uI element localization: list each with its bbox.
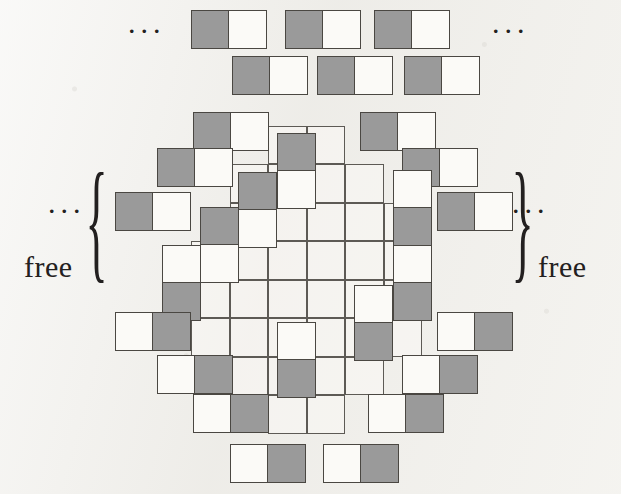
grid-cell: [345, 241, 384, 280]
grid-cell: [307, 280, 346, 319]
domino-half: [157, 355, 196, 394]
domino-half: [232, 56, 271, 95]
domino-half: [360, 112, 399, 151]
domino-half: [437, 312, 476, 351]
domino-tile: [368, 394, 445, 433]
domino-tile: [437, 192, 514, 231]
domino-half: [193, 394, 232, 433]
domino-half: [393, 245, 432, 284]
domino-half: [439, 355, 478, 394]
domino-half: [354, 285, 393, 324]
grid-cell: [268, 280, 307, 319]
domino-half: [368, 394, 407, 433]
domino-half: [157, 148, 196, 187]
domino-half: [374, 10, 413, 49]
domino-half: [393, 170, 432, 209]
domino-tile: [115, 312, 192, 351]
domino-tile: [393, 245, 432, 322]
domino-half: [317, 56, 356, 95]
domino-tile: [200, 207, 239, 284]
grid-cell: [230, 357, 269, 396]
domino-tile: [157, 148, 234, 187]
domino-tile: [360, 112, 437, 151]
domino-tile: [230, 444, 307, 483]
domino-half: [269, 56, 308, 95]
domino-half: [228, 10, 267, 49]
domino-tile: [162, 245, 201, 322]
free-label-right: free: [538, 250, 587, 284]
domino-tile: [232, 56, 309, 95]
grid-cell: [230, 280, 269, 319]
domino-half: [322, 10, 361, 49]
grid-cell: [268, 395, 307, 434]
domino-tile: [404, 56, 481, 95]
domino-half: [277, 322, 316, 361]
grid-cell: [307, 241, 346, 280]
domino-half: [162, 245, 201, 284]
domino-half: [360, 444, 399, 483]
domino-half: [194, 148, 233, 187]
domino-half: [411, 10, 450, 49]
ellipsis-top-right: ...: [492, 8, 530, 38]
domino-tile: [157, 355, 234, 394]
ellipsis-top-left: ...: [128, 8, 166, 38]
domino-tile: [277, 133, 316, 210]
domino-half: [402, 355, 441, 394]
domino-tile: [193, 394, 270, 433]
domino-tile: [285, 10, 362, 49]
brace-right: }: [511, 155, 533, 289]
domino-half: [238, 209, 277, 248]
domino-half: [230, 444, 269, 483]
domino-tile: [317, 56, 394, 95]
domino-half: [191, 10, 230, 49]
domino-half: [277, 133, 316, 172]
domino-half: [200, 244, 239, 283]
domino-tile: [374, 10, 451, 49]
grid-cell: [307, 395, 346, 434]
domino-half: [285, 10, 324, 49]
domino-half: [230, 112, 269, 151]
domino-tile: [402, 355, 479, 394]
domino-half: [474, 312, 513, 351]
domino-tile: [323, 444, 400, 483]
domino-half: [115, 192, 154, 231]
domino-half: [277, 170, 316, 209]
domino-tile: [115, 192, 192, 231]
domino-half: [115, 312, 154, 351]
domino-tile: [191, 10, 268, 49]
domino-tiling-figure: ............freefree{}: [0, 0, 621, 494]
domino-tile: [437, 312, 514, 351]
domino-half: [323, 444, 362, 483]
domino-tile: [238, 172, 277, 249]
free-label-left: free: [24, 250, 73, 284]
domino-half: [267, 444, 306, 483]
domino-half: [439, 148, 478, 187]
domino-half: [238, 172, 277, 211]
grid-cell: [191, 318, 230, 357]
domino-half: [152, 312, 191, 351]
grid-cell: [345, 203, 384, 242]
domino-half: [393, 207, 432, 246]
domino-half: [404, 56, 443, 95]
grid-cell: [345, 357, 384, 396]
domino-half: [474, 192, 513, 231]
domino-tile: [193, 112, 270, 151]
domino-tile: [277, 322, 316, 399]
domino-half: [194, 355, 233, 394]
ellipsis-mid-left: ...: [48, 188, 86, 218]
domino-half: [200, 207, 239, 246]
domino-half: [354, 56, 393, 95]
domino-half: [230, 394, 269, 433]
domino-half: [397, 112, 436, 151]
grid-cell: [230, 318, 269, 357]
domino-half: [393, 282, 432, 321]
domino-half: [437, 192, 476, 231]
domino-half: [354, 322, 393, 361]
domino-tile: [354, 285, 393, 362]
domino-half: [152, 192, 191, 231]
domino-half: [441, 56, 480, 95]
domino-half: [193, 112, 232, 151]
grid-cell: [345, 164, 384, 203]
domino-half: [405, 394, 444, 433]
domino-half: [277, 359, 316, 398]
